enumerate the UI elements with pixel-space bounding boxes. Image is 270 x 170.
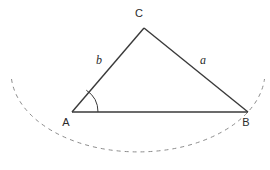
- vertex-label-a: A: [62, 116, 70, 128]
- dashed-arc: [12, 79, 265, 152]
- vertex-label-c: C: [135, 7, 143, 19]
- triangle-diagram: C A B b a: [0, 0, 270, 170]
- vertex-label-b: B: [242, 116, 249, 128]
- triangle-side-b: [72, 28, 144, 112]
- side-label-b: b: [96, 53, 102, 67]
- triangle-side-a: [144, 28, 248, 112]
- figure-canvas: C A B b a: [0, 0, 270, 170]
- side-label-a: a: [200, 53, 206, 67]
